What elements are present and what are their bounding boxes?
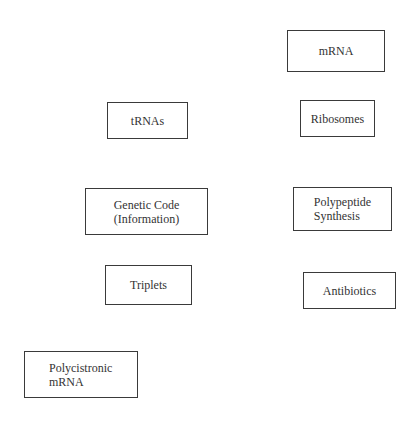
box-label: mRNA [319,44,354,58]
box-trnas: tRNAs [107,102,188,139]
box-mrna: mRNA [287,30,385,72]
box-label: Triplets [130,278,167,292]
box-triplets: Triplets [105,265,192,305]
box-polypeptide-synthesis: Polypeptide Synthesis [293,187,392,231]
box-antibiotics: Antibiotics [303,272,396,309]
box-label: tRNAs [131,114,164,128]
box-polycistronic-mrna: Polycistronic mRNA [24,351,138,398]
box-label: Polypeptide Synthesis [314,195,371,223]
box-label: Genetic Code (Information) [114,198,180,226]
box-label: Antibiotics [323,284,376,298]
box-label: Polycistronic mRNA [49,361,112,389]
box-label: Ribosomes [311,112,364,126]
box-genetic-code: Genetic Code (Information) [85,188,208,235]
box-ribosomes: Ribosomes [300,100,375,137]
